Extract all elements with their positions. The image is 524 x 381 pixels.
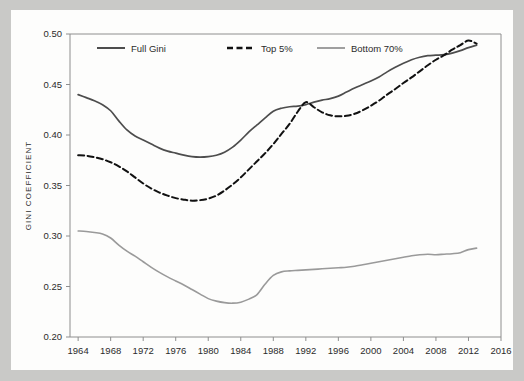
x-tick-label: 1980 <box>198 345 219 356</box>
gini-line-chart: 0.200.250.300.350.400.450.50 19641968197… <box>11 10 513 370</box>
x-tick-label: 1976 <box>165 345 186 356</box>
x-tick-label: 1988 <box>263 345 284 356</box>
x-axis-ticks: 1964196819721976198019841988199219962000… <box>68 337 512 356</box>
y-tick-label: 0.20 <box>44 331 63 342</box>
x-tick-label: 1972 <box>133 345 154 356</box>
axes <box>70 34 501 337</box>
y-axis-title: GINI COEFFICIENT <box>24 141 33 231</box>
x-tick-label: 2008 <box>425 345 446 356</box>
x-tick-label: 2016 <box>490 345 511 356</box>
y-tick-label: 0.25 <box>44 281 63 292</box>
y-tick-label: 0.40 <box>44 129 63 140</box>
y-axis-ticks: 0.200.250.300.350.400.450.50 <box>44 28 71 342</box>
series-line-top-5 <box>78 41 476 201</box>
x-tick-label: 2000 <box>360 345 381 356</box>
x-tick-label: 2004 <box>393 345 414 356</box>
series-line-bottom-70 <box>78 231 476 303</box>
x-tick-label: 1996 <box>328 345 349 356</box>
y-tick-label: 0.45 <box>44 79 63 90</box>
figure-canvas: 0.200.250.300.350.400.450.50 19641968197… <box>0 0 524 381</box>
y-tick-label: 0.50 <box>44 28 63 39</box>
x-tick-label: 2012 <box>458 345 479 356</box>
x-tick-label: 1964 <box>68 345 89 356</box>
legend-label: Top 5% <box>261 43 293 54</box>
y-tick-label: 0.30 <box>44 230 63 241</box>
x-tick-label: 1968 <box>100 345 121 356</box>
x-tick-label: 1984 <box>230 345 251 356</box>
chart-legend: Full GiniTop 5%Bottom 70% <box>97 43 403 54</box>
chart-panel: 0.200.250.300.350.400.450.50 19641968197… <box>11 10 513 370</box>
y-tick-label: 0.35 <box>44 180 63 191</box>
x-tick-label: 1992 <box>295 345 316 356</box>
data-series <box>78 41 476 304</box>
legend-label: Full Gini <box>131 43 166 54</box>
legend-label: Bottom 70% <box>351 43 403 54</box>
